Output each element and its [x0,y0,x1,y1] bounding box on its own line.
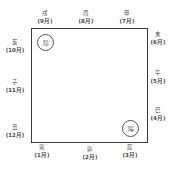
label-you-8th-month: 酉 (8月) [73,9,99,25]
label-yin-1st-month: 寅 (1月) [29,143,55,159]
month-text: (2月) [77,153,103,161]
label-hai-10th-month: 亥 (10月) [2,38,28,54]
month-text: (11月) [2,86,28,94]
branch-char: 丑 [2,123,28,131]
label-shen-7th-month: 申 (7月) [114,9,140,25]
branch-char: 卯 [77,145,103,153]
month-text: (8月) [73,17,99,25]
branch-char: 戌 [32,9,58,17]
label-xu-9th-month: 戌 (9月) [32,9,58,25]
month-text: (9月) [32,17,58,25]
yin-label: 陰 [43,38,49,47]
month-text: (6月) [145,38,171,46]
month-text: (4月) [145,114,171,122]
month-text: (1月) [29,151,55,159]
label-wei-6th-month: 未 (6月) [145,30,171,46]
branch-char: 亥 [2,38,28,46]
label-mao-2nd-month: 卯 (2月) [77,145,103,161]
branch-char: 寅 [29,143,55,151]
branch-char: 巳 [145,106,171,114]
branch-char: 辰 [117,143,143,151]
yin-circle: 陰 [37,34,54,51]
month-text: (10月) [2,46,28,54]
branch-char: 未 [145,30,171,38]
label-si-4th-month: 巳 (4月) [145,106,171,122]
yang-label: 陽 [128,124,134,133]
label-zi-11th-month: 子 (11月) [2,78,28,94]
branch-char: 子 [2,78,28,86]
branch-char: 酉 [73,9,99,17]
month-text: (3月) [117,151,143,159]
branch-char: 午 [145,69,171,77]
month-text: (7月) [114,17,140,25]
branch-char: 申 [114,9,140,17]
yang-circle: 陽 [122,120,139,137]
month-text: (5月) [145,77,171,85]
label-wu-5th-month: 午 (5月) [145,69,171,85]
label-chen-3rd-month: 辰 (3月) [117,143,143,159]
month-text: (12月) [2,131,28,139]
label-chou-12th-month: 丑 (12月) [2,123,28,139]
